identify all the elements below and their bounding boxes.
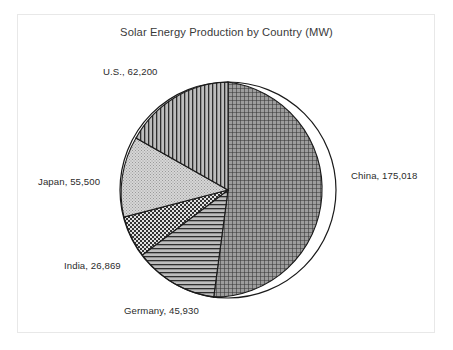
pie-label-japan: Japan, 55,500 bbox=[38, 176, 100, 187]
pie-chart-area: Solar Energy Production by Country (MW) bbox=[0, 0, 453, 350]
pie-label-india: India, 26,869 bbox=[64, 260, 121, 271]
pie-label-china: China, 175,018 bbox=[351, 170, 417, 181]
pie-label-germany: Germany, 45,930 bbox=[124, 305, 199, 316]
pie-label-us: U.S., 62,200 bbox=[103, 66, 158, 77]
